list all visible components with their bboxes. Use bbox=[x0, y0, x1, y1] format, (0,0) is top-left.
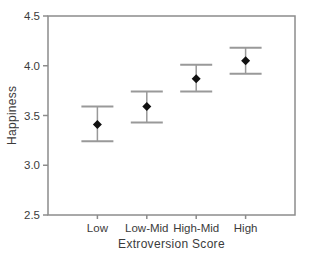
y-tick-label: 3.5 bbox=[24, 110, 40, 122]
y-tick-label: 2.5 bbox=[24, 209, 40, 221]
plot-frame bbox=[48, 16, 295, 215]
error-bar-chart-figure: 2.53.03.54.04.5LowLow-MidHigh-MidHigh Ha… bbox=[0, 0, 310, 266]
mean-marker-diamond bbox=[142, 102, 151, 111]
mean-marker-diamond bbox=[192, 74, 201, 83]
mean-marker-diamond bbox=[93, 120, 102, 129]
y-axis-title: Happiness bbox=[4, 16, 20, 215]
x-tick-label: High bbox=[234, 222, 258, 234]
y-tick-label: 3.0 bbox=[24, 159, 40, 171]
x-axis-title: Extroversion Score bbox=[48, 237, 295, 251]
y-tick-label: 4.5 bbox=[24, 10, 40, 22]
x-tick-label: High-Mid bbox=[173, 222, 219, 234]
mean-marker-diamond bbox=[241, 56, 250, 65]
x-tick-label: Low-Mid bbox=[125, 222, 168, 234]
y-tick-label: 4.0 bbox=[24, 60, 40, 72]
chart-plot-area: 2.53.03.54.04.5LowLow-MidHigh-MidHigh bbox=[0, 0, 310, 266]
x-tick-label: Low bbox=[87, 222, 109, 234]
